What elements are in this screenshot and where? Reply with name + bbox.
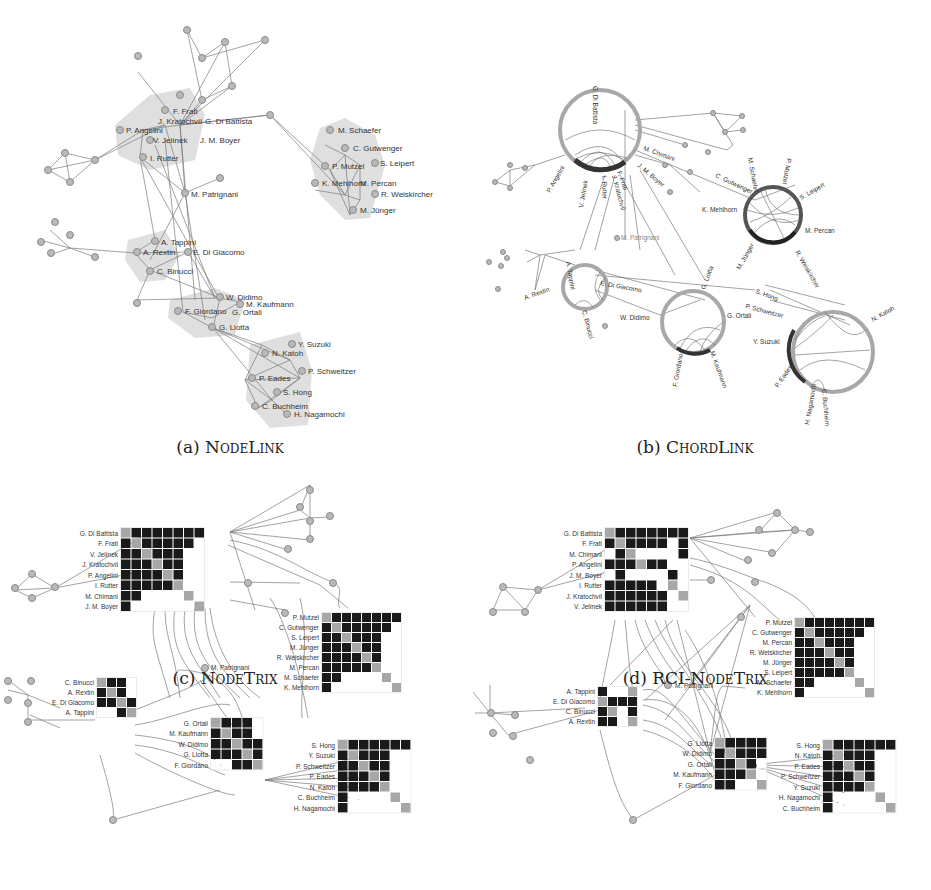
matrix-cell [726, 749, 736, 759]
matrix-cell [679, 591, 689, 601]
matrix-cell [886, 782, 896, 792]
svg-text:V. Jelínek: V. Jelínek [153, 136, 188, 145]
matrix-cell [163, 591, 173, 601]
edges [495, 110, 850, 325]
matrix-cell [174, 560, 184, 570]
matrix-cell [679, 549, 689, 559]
svg-text:S. Leipert: S. Leipert [798, 181, 826, 202]
matrix-row-label: C. Gutwenger [752, 629, 793, 637]
matrix-cell [747, 759, 757, 769]
matrix-cell [865, 688, 874, 697]
adjacency-matrix: A. TappiniE. Di GiacomoC. BinucciA. Rext… [553, 687, 637, 727]
matrix-cell [835, 678, 844, 687]
svg-text:W. Didimo: W. Didimo [620, 314, 650, 321]
matrix-cell [845, 638, 854, 647]
matrix-cell [349, 772, 359, 782]
matrix-row-label: J. Kratochvíl [82, 561, 118, 568]
matrix-cell [391, 772, 401, 782]
matrix-cell [637, 581, 647, 591]
matrix-cell [823, 782, 833, 792]
matrix-cell [370, 793, 380, 803]
matrix-cell [876, 751, 886, 761]
matrix-cell [392, 633, 401, 642]
matrix-cell [886, 772, 896, 782]
matrix-cell [757, 759, 767, 769]
matrix-cell [795, 638, 804, 647]
matrix-cell [342, 623, 351, 632]
matrix-cell [342, 643, 351, 652]
matrix-cell [637, 528, 647, 538]
svg-text:V. Jelínek: V. Jelínek [577, 179, 589, 208]
matrix-cell [726, 738, 736, 748]
matrix-cell [605, 560, 615, 570]
matrix-cell [372, 613, 381, 622]
matrix-cell [253, 739, 263, 749]
svg-text:P. Eades: P. Eades [259, 374, 290, 383]
matrix-cell [391, 751, 401, 761]
matrix-cell [359, 751, 369, 761]
matrix-row-label: P. Angelini [88, 572, 118, 580]
matrix-cell [658, 560, 668, 570]
matrix-cell [370, 761, 380, 771]
matrix-cell [626, 528, 636, 538]
matrix-cell [747, 749, 757, 759]
matrix-row-label: M. Kaufmann [673, 771, 712, 778]
matrix-cell [107, 698, 116, 707]
matrix-cell [362, 653, 371, 662]
edges [40, 30, 360, 413]
matrix-cell [598, 687, 607, 696]
svg-text:P. Schweitzer: P. Schweitzer [308, 367, 356, 376]
matrix-cell [626, 549, 636, 559]
matrix-cell [865, 740, 875, 750]
matrix-row-label: M. Jünger [290, 644, 320, 652]
matrix-cell [865, 761, 875, 771]
matrix-row-label: C. Binucci [65, 679, 94, 686]
svg-text:N. Katoh: N. Katoh [272, 349, 303, 358]
matrix-cell [362, 633, 371, 642]
svg-text:M. Percan: M. Percan [360, 179, 396, 188]
matrix-cell [855, 618, 864, 627]
matrix-cell [232, 750, 242, 760]
svg-text:M. Jünger: M. Jünger [735, 241, 757, 271]
svg-text:H. Nagamochi: H. Nagamochi [294, 410, 345, 419]
matrix-cell [232, 718, 242, 728]
matrix-cell [127, 678, 136, 687]
matrix-row-label: I. Rutter [95, 582, 119, 589]
svg-text:C. Binucci: C. Binucci [157, 267, 193, 276]
matrix-cell [382, 653, 391, 662]
matrix-cell [362, 613, 371, 622]
matrix-cell [359, 740, 369, 750]
matrix-cell [392, 683, 401, 692]
matrix-cell [598, 717, 607, 726]
matrix-cell [628, 717, 637, 726]
matrix-row-label: G. Di Battista [80, 530, 119, 537]
matrix-cell [844, 803, 854, 813]
matrix-cell [736, 780, 746, 790]
matrix-cell [865, 678, 874, 687]
matrix-row-label: I. Rutter [579, 582, 603, 589]
matrix-cell [370, 740, 380, 750]
matrix-cell [865, 793, 875, 803]
matrix-cell [736, 749, 746, 759]
matrix-cell [886, 740, 896, 750]
matrix-cell [370, 751, 380, 761]
matrix-cell [658, 549, 668, 559]
svg-text:A. Rextin: A. Rextin [143, 248, 175, 257]
matrix-cell [142, 528, 152, 538]
matrix-cell [876, 782, 886, 792]
caption-chordlink: (b) ChordLink [605, 437, 785, 457]
matrix-cell [605, 602, 615, 612]
matrix-cell [401, 761, 411, 771]
svg-text:P. Mutzel: P. Mutzel [781, 158, 793, 186]
matrix-cell [107, 678, 116, 687]
matrix-cell [195, 581, 205, 591]
matrix-cell [845, 618, 854, 627]
matrix-cell [342, 633, 351, 642]
matrix-cell [142, 591, 152, 601]
matrix-cell [243, 739, 253, 749]
matrix-cell [747, 770, 757, 780]
matrix-cell [332, 643, 341, 652]
matrix-cell [844, 772, 854, 782]
matrix-row-label: S. Hong [797, 742, 821, 750]
svg-text:M. Patrignani: M. Patrignani [191, 190, 238, 199]
